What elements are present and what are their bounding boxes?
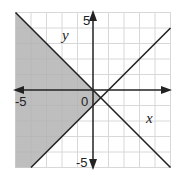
tick-label-x-min: -5 <box>15 95 27 108</box>
x-axis-label: x <box>146 111 153 126</box>
y-axis-down-arrow-icon <box>89 159 97 170</box>
tick-label-y-min: -5 <box>76 156 88 169</box>
y-axis-label: y <box>62 28 69 43</box>
tick-label-y-max: 5 <box>83 14 90 27</box>
tick-label-origin: 0 <box>81 95 88 108</box>
coordinate-plane <box>0 0 181 179</box>
